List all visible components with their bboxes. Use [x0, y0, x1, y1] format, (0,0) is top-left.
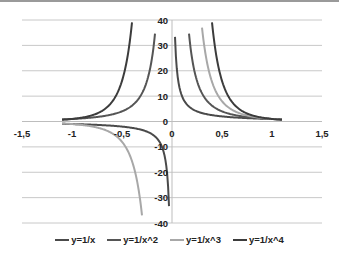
legend-swatch — [233, 239, 247, 241]
x-tick-label: 0,5 — [215, 128, 229, 139]
line-chart: 403020100-10-20-30-40 -1,5-1-0,500,511,5 — [0, 0, 339, 261]
y-tick-label: 20 — [157, 65, 168, 76]
y-tick-label: 40 — [157, 15, 168, 26]
legend-item-1-over-x3: y=1/x^3 — [170, 234, 221, 245]
x-axis-tick-labels: -1,5-1-0,500,511,5 — [14, 128, 330, 139]
y-tick-label: -20 — [154, 167, 168, 178]
x-tick-label: -1 — [68, 128, 77, 139]
legend-label: y=1/x^4 — [249, 234, 284, 245]
axes — [22, 20, 322, 223]
legend-swatch — [107, 239, 121, 241]
x-tick-label: -0,5 — [114, 128, 131, 139]
legend-label: y=1/x^2 — [123, 234, 158, 245]
x-tick-label: 1 — [269, 128, 275, 139]
x-tick-label: 0 — [169, 128, 174, 139]
y-tick-label: -10 — [154, 141, 168, 152]
legend-swatch — [170, 239, 184, 241]
legend-item-1-over-x4: y=1/x^4 — [233, 234, 284, 245]
x-tick-label: -1,5 — [14, 128, 31, 139]
legend-item-1-over-x: y=1/x — [55, 234, 95, 245]
x-tick-label: 1,5 — [315, 128, 329, 139]
legend-label: y=1/x^3 — [186, 234, 221, 245]
y-tick-label: 0 — [163, 116, 168, 127]
legend-swatch — [55, 239, 69, 241]
legend-label: y=1/x — [71, 234, 95, 245]
legend-item-1-over-x2: y=1/x^2 — [107, 234, 158, 245]
legend: y=1/x y=1/x^2 y=1/x^3 y=1/x^4 — [0, 234, 339, 245]
y-tick-label: -30 — [154, 192, 168, 203]
y-tick-label: 30 — [157, 40, 168, 51]
y-tick-label: -40 — [154, 218, 168, 229]
y-tick-label: 10 — [157, 91, 168, 102]
